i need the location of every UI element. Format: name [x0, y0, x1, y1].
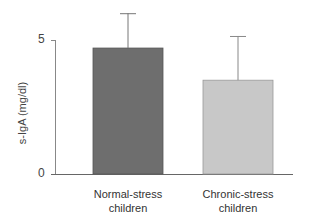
x-label-chronic-stress-line2: children: [183, 201, 293, 215]
x-label-chronic-stress-line1: Chronic-stress: [183, 187, 293, 201]
bar-chart: 5 0 s-IgA (mg/dl) Normal-stress children…: [0, 0, 309, 223]
x-label-normal-stress: Normal-stress children: [73, 187, 183, 215]
y-tick-label-0: 0: [38, 166, 45, 180]
x-label-chronic-stress: Chronic-stress children: [183, 187, 293, 215]
x-label-normal-stress-line2: children: [73, 201, 183, 215]
y-tick-label-5: 5: [38, 32, 45, 46]
y-axis-label: s-IgA (mg/dl): [16, 63, 28, 163]
x-label-normal-stress-line1: Normal-stress: [73, 187, 183, 201]
bar-normal-stress: [93, 48, 163, 174]
bar-chronic-stress: [203, 80, 273, 174]
